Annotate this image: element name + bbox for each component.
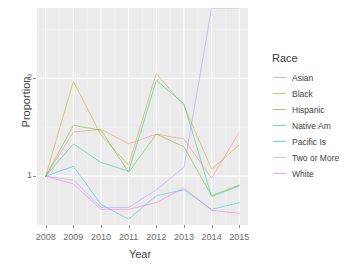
legend-item-label: Black xyxy=(292,89,313,99)
plot-panel xyxy=(37,8,248,225)
x-tick-mark xyxy=(73,225,74,228)
y-tick-label: 2 xyxy=(14,73,32,82)
legend-item-label: Two or More xyxy=(292,153,339,163)
legend-line-icon xyxy=(272,87,287,101)
legend-item[interactable]: Hispanic xyxy=(272,102,350,118)
plot-lines xyxy=(37,8,248,225)
y-axis-ticks: 12 xyxy=(14,0,32,268)
x-axis-title: Year xyxy=(30,248,250,260)
legend-item[interactable]: Native Am xyxy=(272,118,350,134)
legend-line-icon xyxy=(272,119,287,133)
legend: Race AsianBlackHispanicNative AmPacific … xyxy=(272,52,350,182)
x-tick-mark xyxy=(46,225,47,228)
y-tick-mark xyxy=(33,78,36,79)
legend-items: AsianBlackHispanicNative AmPacific IsTwo… xyxy=(272,70,350,182)
x-tick-mark xyxy=(239,225,240,228)
legend-item-label: Native Am xyxy=(292,121,331,131)
legend-line-icon xyxy=(272,151,287,165)
legend-item[interactable]: Asian xyxy=(272,70,350,86)
y-tick-label: 1 xyxy=(14,171,32,180)
x-tick-label: 2015 xyxy=(222,232,256,242)
legend-item-label: Pacific Is xyxy=(292,137,326,147)
chart-figure: Proportion 12 Year Race AsianBlackHispan… xyxy=(0,0,350,268)
x-tick-mark xyxy=(101,225,102,228)
x-tick-mark xyxy=(129,225,130,228)
legend-item[interactable]: Pacific Is xyxy=(272,134,350,150)
legend-line-icon xyxy=(272,103,287,117)
legend-item[interactable]: White xyxy=(272,166,350,182)
x-tick-mark xyxy=(156,225,157,228)
y-tick-mark xyxy=(33,176,36,177)
x-tick-mark xyxy=(184,225,185,228)
legend-title: Race xyxy=(272,52,350,64)
x-tick-mark xyxy=(212,225,213,228)
legend-item-label: White xyxy=(292,169,314,179)
legend-line-icon xyxy=(272,135,287,149)
legend-line-icon xyxy=(272,167,287,181)
legend-item-label: Asian xyxy=(292,73,313,83)
legend-item[interactable]: Two or More xyxy=(272,150,350,166)
legend-item-label: Hispanic xyxy=(292,105,325,115)
legend-item[interactable]: Black xyxy=(272,86,350,102)
legend-line-icon xyxy=(272,71,287,85)
